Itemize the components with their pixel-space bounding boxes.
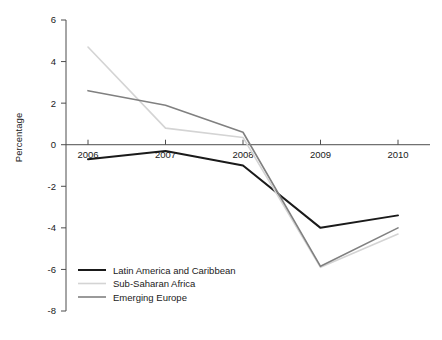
y-tick-label: 4 — [51, 56, 56, 67]
y-axis-group: 6420-2-4-6-8 — [48, 14, 66, 316]
y-tick-label: -8 — [48, 305, 56, 316]
y-tick-label: 2 — [51, 98, 56, 109]
y-axis-ticks: 6420-2-4-6-8 — [48, 14, 66, 316]
legend-label: Sub-Saharan Africa — [113, 278, 196, 289]
y-tick-label: 0 — [51, 139, 56, 150]
x-axis-ticks: 20062007200820092010 — [77, 140, 408, 160]
chart-legend: Latin America and CaribbeanSub-Saharan A… — [78, 265, 236, 303]
y-tick-label: -2 — [48, 181, 56, 192]
series-line — [88, 91, 398, 267]
y-tick-label: 6 — [51, 14, 56, 25]
y-tick-label: -6 — [48, 264, 56, 275]
series-line — [88, 151, 398, 228]
legend-label: Latin America and Caribbean — [113, 265, 236, 276]
line-chart: Percentage 6420-2-4-6-8 2006200720082009… — [0, 0, 442, 340]
y-tick-label: -4 — [48, 222, 56, 233]
x-tick-label: 2009 — [310, 149, 331, 160]
legend-label: Emerging Europe — [113, 292, 187, 303]
chart-plot-area: 6420-2-4-6-8 20062007200820092010 Latin … — [0, 0, 442, 340]
x-tick-label: 2010 — [387, 149, 408, 160]
